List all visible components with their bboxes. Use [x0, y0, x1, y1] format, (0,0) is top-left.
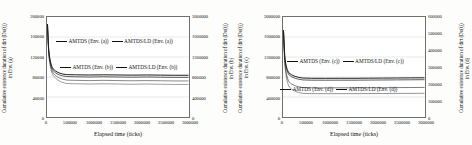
plot-svg-right — [283, 17, 425, 117]
legend-row-bottom-right-panel: AMTDS (Env. (d)) AMTDS/LD (Env. (d)) — [280, 86, 397, 92]
series-amtds-ld-env-c — [283, 30, 424, 80]
legend-line-icon — [280, 89, 291, 90]
left-y-axis-ticks: 0 400000 800000 1200000 1600000 2000000 — [250, 16, 280, 118]
x-axis-ticks-right-panel: 0 500000 1000000 1500000 2000000 2500000… — [282, 120, 426, 129]
legend-label: AMTDS/LD (Env. (a)) — [124, 38, 173, 44]
chart-panel-right: Cumulative existence duration of dirt (D… — [236, 0, 472, 145]
legend-label: AMTDS/LD (Env. (c)) — [355, 58, 404, 64]
x-axis-title-left-panel: Elapsed time (ticks) — [0, 131, 236, 137]
legend-line-icon — [343, 61, 354, 62]
legend-row-top-left-panel: AMTDS (Env. (a)) AMTDS/LD (Env. (a)) — [56, 38, 173, 44]
legend-line-icon — [287, 61, 298, 62]
legend-item-amtds-env-d: AMTDS (Env. (d)) — [280, 86, 333, 92]
legend-line-icon — [112, 41, 123, 42]
legend-item-amtds-ld-env-c: AMTDS/LD (Env. (c)) — [343, 58, 404, 64]
series-amtds-env-b — [47, 24, 188, 81]
series-lines-left — [47, 24, 188, 84]
legend-item-amtds-ld-env-d: AMTDS/LD (Env. (d)) — [336, 86, 397, 92]
left-y-axis-title: Cumulative existence duration of dirt (D… — [237, 6, 250, 130]
legend-item-amtds-ld-env-a: AMTDS/LD (Env. (a)) — [112, 38, 173, 44]
legend-line-icon — [60, 67, 71, 68]
legend-item-amtds-ld-env-b: AMTDS/LD (Env. (b)) — [116, 64, 177, 70]
series-amtds-env-c — [283, 30, 424, 78]
legend-label: AMTDS (Env. (b)) — [73, 64, 113, 70]
x-axis-ticks-left-panel: 0 500000 1000000 1500000 2000000 2500000… — [46, 120, 190, 129]
legend-item-amtds-env-c: AMTDS (Env. (c)) — [287, 58, 340, 64]
legend-row-top-right-panel: AMTDS (Env. (c)) AMTDS/LD (Env. (c)) — [287, 58, 404, 64]
right-y-axis-title: Cumulative existence duration of dirt (D… — [222, 6, 235, 130]
legend-label: AMTDS (Env. (c)) — [300, 58, 340, 64]
plot-area-right — [282, 16, 426, 118]
legend-label: AMTDS (Env. (a)) — [69, 38, 109, 44]
legend-label: AMTDS (Env. (d)) — [293, 86, 333, 92]
legend-label: AMTDS/LD (Env. (d)) — [348, 86, 397, 92]
right-y-axis-title: Cumulative existence duration of dirt (D… — [458, 6, 471, 130]
x-axis-title-right-panel: Elapsed time (ticks) — [236, 131, 472, 137]
legend-item-amtds-env-a: AMTDS (Env. (a)) — [56, 38, 109, 44]
figure-two-panel-charts: Cumulative existence duration of dirt (D… — [0, 0, 472, 145]
legend-line-icon — [116, 67, 127, 68]
legend-line-icon — [56, 41, 67, 42]
right-y-axis-ticks: 0 400000 800000 1200000 1600000 2000000 — [192, 16, 222, 118]
legend-row-bottom-left-panel: AMTDS (Env. (b)) AMTDS/LD (Env. (b)) — [60, 64, 177, 70]
left-y-axis-title: Cumulative existence duration of dirt (D… — [1, 6, 14, 130]
left-y-axis-ticks: 0 40000 80000 120000 160000 200000 — [14, 16, 44, 118]
chart-panel-left: Cumulative existence duration of dirt (D… — [0, 0, 236, 145]
right-y-axis-ticks: 0 100000 200000 300000 400000 500000 600… — [428, 16, 458, 118]
legend-label: AMTDS/LD (Env. (b)) — [128, 64, 177, 70]
legend-line-icon — [336, 89, 347, 90]
legend-item-amtds-env-b: AMTDS (Env. (b)) — [60, 64, 113, 70]
